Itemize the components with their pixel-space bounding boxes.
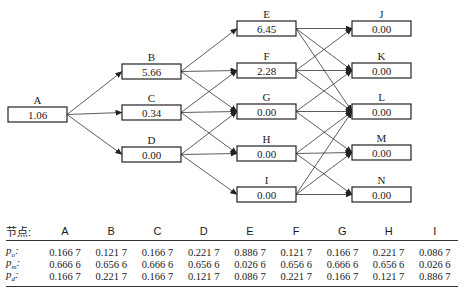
table-top-rule [6,240,458,241]
table-cell: 0.221 7 [181,247,227,258]
table-cell: 0.026 6 [227,259,273,270]
table-cell: 0.886 7 [412,271,458,282]
table-cell: 0.166 7 [319,247,365,258]
node-i: I0.00 [237,174,296,202]
node-value: 1.06 [28,109,48,121]
table-cell: 0.166 7 [42,247,88,258]
node-value: 0.00 [372,65,392,77]
node-h: H0.00 [237,133,296,161]
node-value: 6.45 [257,23,277,35]
node-label: M [377,132,387,144]
column-header: D [181,225,227,237]
node-label: K [378,50,386,62]
edge-a-d [67,115,122,155]
table-cell: 0.666 6 [319,259,365,270]
edge-e-l [296,29,352,112]
node-d: D0.00 [122,134,181,162]
table-cell: 0.656 6 [273,259,319,270]
table-cell: 0.121 7 [88,247,134,258]
edge-c-g [181,112,237,113]
node-label: G [263,91,271,103]
table-cell: 0.666 6 [42,259,88,270]
column-header: G [319,225,365,237]
table-row-pm: pm: 0.666 6 0.656 6 0.666 6 0.656 6 0.02… [6,258,458,270]
table-cell: 0.166 7 [134,247,180,258]
trinomial-tree-diagram: A1.06B5.66C0.34D0.00E6.45F2.28G0.00H0.00… [0,0,464,222]
edge-b-f [181,71,237,72]
node-label: D [148,134,156,146]
table-cell: 0.166 7 [134,271,180,282]
node-value: 0.34 [142,107,162,119]
table-header-label: 节点: [6,223,42,239]
node-value: 0.00 [372,106,392,118]
edge-c-f [181,71,237,113]
node-value: 0.00 [372,189,392,201]
node-n: N0.00 [352,174,411,202]
node-f: F2.28 [237,50,296,78]
column-header: E [227,225,273,237]
edge-d-h [181,154,237,155]
table-cell: 0.221 7 [88,271,134,282]
table-cell: 0.166 7 [42,271,88,282]
table-cell: 0.086 7 [227,271,273,282]
probability-table: 节点: A B C D E F G H I pu: 0.166 7 0.121 … [6,224,458,287]
node-m: M0.00 [352,132,411,160]
node-k: K0.00 [352,50,411,78]
node-value: 0.00 [372,147,392,159]
edge-d-g [181,112,237,155]
column-header: C [134,225,180,237]
column-header: A [42,225,88,237]
table-cell: 0.221 7 [366,247,412,258]
node-value: 0.00 [142,149,162,161]
node-l: L0.00 [352,91,411,119]
node-label: I [265,174,269,186]
table-cell: 0.086 7 [412,247,458,258]
table-cell: 0.166 7 [319,271,365,282]
column-header: I [412,225,458,237]
table-cell: 0.656 6 [366,259,412,270]
edge-b-e [181,29,237,72]
node-label: E [263,8,270,20]
edge-d-i [181,155,237,195]
node-value: 0.00 [257,106,277,118]
table-cell: 0.121 7 [366,271,412,282]
edge-a-c [67,113,122,115]
row-label-pd: pd: [6,268,42,283]
node-label: J [379,8,384,20]
nodes-layer: A1.06B5.66C0.34D0.00E6.45F2.28G0.00H0.00… [8,8,411,202]
node-value: 0.00 [372,23,392,35]
column-header: F [273,225,319,237]
node-g: G0.00 [237,91,296,119]
node-label: B [148,51,155,63]
node-a: A1.06 [8,94,67,122]
table-cell: 0.221 7 [273,271,319,282]
column-header: B [88,225,134,237]
node-value: 5.66 [142,66,162,78]
node-label: A [34,94,42,106]
node-label: H [263,133,271,145]
table-cell: 0.666 6 [134,259,180,270]
node-label: F [263,50,269,62]
table-bottom-rule [6,286,458,287]
edges-layer [67,29,352,195]
table-row-pu: pu: 0.166 7 0.121 7 0.166 7 0.221 7 0.88… [6,246,458,258]
column-header: H [366,225,412,237]
node-e: E6.45 [237,8,296,36]
node-label: N [378,174,386,186]
table-cell: 0.121 7 [181,271,227,282]
node-label: L [378,91,385,103]
table-row-pd: pd: 0.166 7 0.221 7 0.166 7 0.121 7 0.08… [6,270,458,282]
node-j: J0.00 [352,8,411,36]
node-label: C [148,92,155,104]
node-value: 2.28 [257,65,277,77]
node-value: 0.00 [257,148,277,160]
node-b: B5.66 [122,51,181,79]
table-cell: 0.121 7 [273,247,319,258]
table-cell: 0.656 6 [88,259,134,270]
table-cell: 0.886 7 [227,247,273,258]
table-cell: 0.026 6 [412,259,458,270]
node-c: C0.34 [122,92,181,120]
table-header-row: 节点: A B C D E F G H I [6,224,458,238]
table-cell: 0.656 6 [181,259,227,270]
edge-a-b [67,72,122,115]
